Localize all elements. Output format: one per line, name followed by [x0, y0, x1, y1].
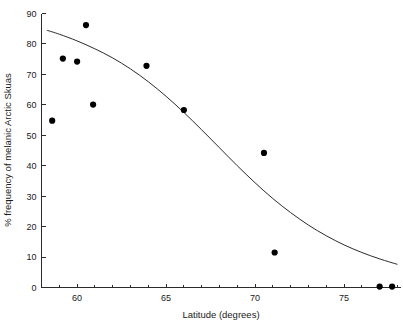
- x-tick-label-60: 60: [72, 293, 82, 303]
- data-points: [49, 22, 395, 290]
- data-point-10: [389, 283, 395, 289]
- y-tick-label-60: 60: [26, 100, 36, 110]
- x-tick-label-70: 70: [250, 293, 260, 303]
- y-axis-ticks: [42, 14, 46, 288]
- x-tick-label-75: 75: [339, 293, 349, 303]
- x-axis-tick-labels: 60657075: [72, 293, 349, 303]
- y-tick-label-0: 0: [31, 283, 36, 293]
- data-point-8: [272, 249, 278, 255]
- y-tick-label-40: 40: [26, 161, 36, 171]
- y-tick-label-20: 20: [26, 222, 36, 232]
- data-point-3: [83, 22, 89, 28]
- scatter-chart: 60657075 0102030405060708090 Latitude (d…: [0, 0, 403, 322]
- y-tick-label-10: 10: [26, 252, 36, 262]
- x-tick-label-65: 65: [161, 293, 171, 303]
- plot-area: 60657075 0102030405060708090 Latitude (d…: [0, 0, 403, 322]
- data-point-5: [143, 63, 149, 69]
- x-axis-ticks: [59, 284, 397, 288]
- y-axis-tick-labels: 0102030405060708090: [26, 9, 36, 293]
- y-tick-label-70: 70: [26, 70, 36, 80]
- y-tick-label-80: 80: [26, 39, 36, 49]
- data-point-1: [60, 55, 66, 61]
- data-point-2: [74, 59, 80, 65]
- data-point-0: [49, 118, 55, 124]
- y-axis-title: % frequency of melanic Arctic Skuas: [2, 73, 13, 227]
- data-point-4: [90, 101, 96, 107]
- data-point-9: [377, 283, 383, 289]
- fitted-curve: [47, 30, 398, 264]
- y-tick-label-30: 30: [26, 192, 36, 202]
- data-point-7: [261, 150, 267, 156]
- y-tick-label-50: 50: [26, 131, 36, 141]
- x-axis-title: Latitude (degrees): [182, 309, 259, 320]
- y-tick-label-90: 90: [26, 9, 36, 19]
- data-point-6: [181, 107, 187, 113]
